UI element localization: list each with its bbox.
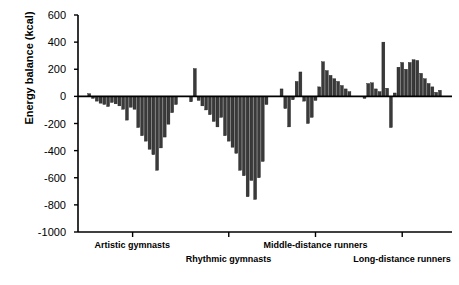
bar xyxy=(405,69,408,96)
bar xyxy=(125,96,128,120)
bar xyxy=(148,96,151,149)
x-axis-group-label: Long-distance runners xyxy=(353,254,451,264)
y-tick-label: 600 xyxy=(20,10,66,20)
y-tick-label: -800 xyxy=(20,200,66,210)
bar xyxy=(163,96,166,137)
bar xyxy=(299,72,302,96)
bar xyxy=(261,96,264,161)
bar xyxy=(129,96,132,107)
bar xyxy=(382,42,385,96)
y-tick-label: 400 xyxy=(20,37,66,47)
bar xyxy=(371,83,374,97)
bar xyxy=(201,96,204,105)
bar xyxy=(156,96,159,170)
bar xyxy=(257,96,260,177)
bar xyxy=(265,96,268,104)
y-tick-label: -400 xyxy=(20,146,66,156)
bar xyxy=(416,60,419,96)
bar xyxy=(144,96,147,141)
bar xyxy=(231,96,234,147)
bar xyxy=(295,81,298,96)
bar xyxy=(224,96,227,135)
bar xyxy=(118,96,121,105)
bar xyxy=(340,86,343,97)
bar xyxy=(227,96,230,141)
bar xyxy=(254,96,257,199)
bar xyxy=(216,96,219,127)
bar xyxy=(322,62,325,97)
bar xyxy=(431,87,434,96)
bar xyxy=(389,96,392,127)
bar xyxy=(250,96,253,180)
plot-area xyxy=(0,0,459,285)
bar xyxy=(427,83,430,96)
bar xyxy=(239,96,242,170)
bar xyxy=(325,71,328,97)
bar xyxy=(205,96,208,110)
bar xyxy=(337,81,340,96)
bar xyxy=(438,90,441,96)
bar xyxy=(280,89,283,96)
bar xyxy=(333,79,336,97)
chart-figure: Energy balance (kcal) 6004002000-200-400… xyxy=(0,0,459,285)
bar xyxy=(114,96,117,103)
bar xyxy=(159,96,162,148)
y-axis-tick-labels: 6004002000-200-400-600-800-1000 xyxy=(20,0,66,285)
x-axis-group-label: Rhythmic gymnasts xyxy=(186,254,272,264)
bar xyxy=(212,96,215,121)
bar xyxy=(133,96,136,109)
bar xyxy=(329,75,332,96)
bar xyxy=(137,96,140,127)
bar xyxy=(288,96,291,127)
bar xyxy=(110,96,113,102)
bar xyxy=(103,96,106,104)
bar xyxy=(152,96,155,154)
bar xyxy=(190,96,193,101)
bar xyxy=(408,62,411,96)
bar xyxy=(122,96,125,109)
bar xyxy=(386,88,389,96)
bar xyxy=(107,96,110,106)
bar xyxy=(208,96,211,114)
bar xyxy=(242,96,245,175)
bar xyxy=(423,79,426,97)
bar xyxy=(318,87,321,96)
bar xyxy=(397,67,400,96)
y-tick-label: -200 xyxy=(20,119,66,129)
bar xyxy=(141,96,144,135)
y-tick-label: -600 xyxy=(20,173,66,183)
y-tick-label: 200 xyxy=(20,64,66,74)
bar xyxy=(193,69,196,97)
x-axis-group-label: Artistic gymnasts xyxy=(95,240,171,250)
bar xyxy=(401,62,404,96)
bar xyxy=(167,96,170,124)
y-tick-label: -1000 xyxy=(20,227,66,237)
bar xyxy=(420,73,423,96)
y-tick-label: 0 xyxy=(20,91,66,101)
bar xyxy=(344,89,347,96)
bar xyxy=(284,96,287,108)
bar xyxy=(306,96,309,123)
bar xyxy=(99,96,102,103)
bar xyxy=(246,96,249,196)
bar xyxy=(374,89,377,96)
x-axis-group-label: Middle-distance runners xyxy=(263,240,367,250)
bar xyxy=(175,96,178,104)
bar xyxy=(220,96,223,117)
bar xyxy=(412,60,415,97)
bar xyxy=(367,83,370,96)
bar xyxy=(171,96,174,112)
bar xyxy=(235,96,238,153)
bar xyxy=(310,96,313,117)
